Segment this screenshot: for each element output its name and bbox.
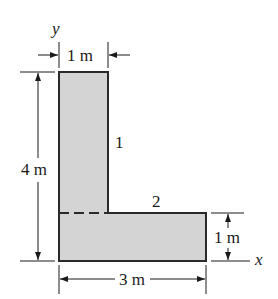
part-2-label: 2 (152, 192, 161, 211)
x-axis-label: x (254, 250, 263, 269)
bottom-width-dimension: 3 m (119, 270, 145, 289)
left-height-dimension: 4 m (21, 160, 47, 179)
l-shape-area (59, 72, 206, 261)
l-shape-diagram: 1 2 y 1 m 4 m 3 m 1 m x (0, 0, 278, 299)
part-1-label: 1 (115, 133, 124, 152)
y-axis-label: y (50, 19, 60, 38)
top-width-dimension: 1 m (67, 46, 93, 65)
right-height-dimension: 1 m (214, 228, 240, 247)
